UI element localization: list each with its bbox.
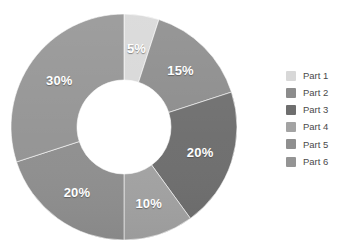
legend-item[interactable]: Part 2 [286, 84, 352, 101]
donut-slice[interactable] [11, 14, 124, 162]
legend-item-label: Part 5 [303, 140, 328, 150]
legend-swatch-icon [286, 88, 296, 98]
legend-item-label: Part 3 [303, 105, 328, 115]
legend-item[interactable]: Part 4 [286, 119, 352, 136]
legend-item-label: Part 6 [303, 157, 328, 167]
donut-slices-group [11, 14, 237, 240]
donut-chart-figure: 5%15%20%10%20%30% Part 1Part 2Part 3Part… [0, 0, 353, 250]
legend-swatch-icon [286, 139, 296, 149]
donut-chart-svg [0, 0, 250, 250]
legend-swatch-icon [286, 105, 296, 115]
legend-item[interactable]: Part 5 [286, 136, 352, 153]
legend-swatch-icon [286, 71, 296, 81]
legend-swatch-icon [286, 157, 296, 167]
legend-item-label: Part 1 [303, 71, 328, 81]
donut-chart-plot-area: 5%15%20%10%20%30% [0, 0, 250, 250]
legend-item[interactable]: Part 1 [286, 67, 352, 84]
legend-item[interactable]: Part 6 [286, 153, 352, 170]
legend-swatch-icon [286, 122, 296, 132]
legend-item-label: Part 4 [303, 122, 328, 132]
chart-legend: Part 1Part 2Part 3Part 4Part 5Part 6 [286, 67, 352, 170]
legend-item[interactable]: Part 3 [286, 101, 352, 118]
legend-item-label: Part 2 [303, 88, 328, 98]
